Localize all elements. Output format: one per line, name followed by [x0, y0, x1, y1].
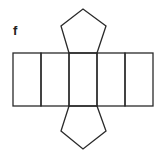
prism-net-diagram [0, 0, 156, 158]
rectangle-face-4 [97, 53, 125, 106]
rectangle-face-3 [69, 53, 97, 106]
rectangle-face-1 [13, 53, 41, 106]
rectangle-face-5 [125, 53, 153, 106]
rectangle-face-2 [41, 53, 69, 106]
pentagon-face-top [61, 9, 106, 53]
pentagon-face-bottom [61, 106, 106, 149]
